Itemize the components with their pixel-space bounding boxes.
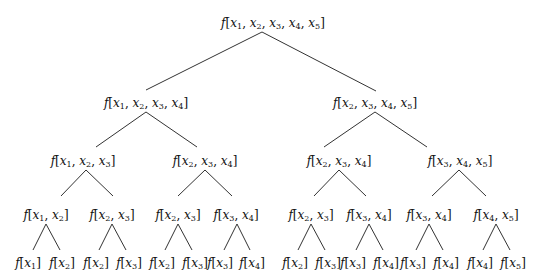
- tree-edge: [314, 170, 339, 196]
- tree-node: f[x2, x3, x4]: [173, 155, 238, 169]
- tree-edge: [165, 224, 178, 250]
- tree-edge: [416, 224, 429, 250]
- tree-leaf: f[x4]: [239, 257, 265, 271]
- tree-edge: [86, 170, 113, 196]
- tree-edge: [146, 32, 262, 90]
- tree-edge: [459, 170, 486, 196]
- tree-node: f[x4, x5]: [473, 209, 518, 223]
- tree-edge: [46, 224, 60, 250]
- tree-edge: [146, 112, 197, 147]
- tree-edge: [311, 224, 325, 250]
- tree-leaf: f[x4]: [467, 257, 493, 271]
- tree-leaf: f[x1]: [15, 257, 41, 271]
- tree-node: f[x2, x3]: [89, 209, 134, 223]
- tree-node: f[x2, x3]: [288, 209, 333, 223]
- tree-node: f[x1, x2, x3, x4]: [104, 97, 188, 111]
- tree-edge: [61, 170, 86, 196]
- tree-edge: [432, 170, 459, 196]
- tree-edge: [237, 224, 250, 250]
- tree-edge: [356, 224, 369, 250]
- tree-leaf: f[x3]: [315, 257, 341, 271]
- tree-leaf: f[x2]: [282, 257, 308, 271]
- tree-leaf: f[x5]: [500, 257, 526, 271]
- tree-leaf: f[x3]: [400, 257, 426, 271]
- tree-edge: [429, 224, 443, 250]
- tree-edge: [339, 170, 366, 196]
- tree-node: f[x3, x4]: [213, 209, 258, 223]
- tree-node: f[x2, x3, x4]: [307, 155, 372, 169]
- tree-leaf: f[x2]: [149, 257, 175, 271]
- tree-leaf: f[x3]: [207, 257, 233, 271]
- tree-edge: [112, 224, 126, 250]
- tree-node: f[x1, x2]: [23, 209, 68, 223]
- tree-node: f[x3, x4]: [406, 209, 451, 223]
- tree-leaf: f[x4]: [433, 257, 459, 271]
- tree-node: f[x1, x2, x3]: [51, 155, 116, 169]
- tree-node: f[x2, x3, x4, x5]: [333, 97, 417, 111]
- tree-leaf: f[x2]: [83, 257, 109, 271]
- tree-edge: [324, 112, 375, 147]
- tree-node: f[x1, x2, x3, x4, x5]: [221, 17, 325, 31]
- tree-node: f[x3, x4]: [346, 209, 391, 223]
- tree-leaf: f[x3]: [182, 257, 208, 271]
- tree-edge: [96, 112, 146, 147]
- tree-edge: [224, 224, 237, 250]
- tree-node: f[x3, x4, x5]: [428, 155, 493, 169]
- tree-edge: [375, 112, 427, 147]
- divided-difference-tree: f[x1, x2, x3, x4, x5]f[x1, x2, x3, x4]f[…: [0, 0, 546, 278]
- tree-leaf: f[x3]: [340, 257, 366, 271]
- tree-node: f[x2, x3]: [155, 209, 200, 223]
- tree-leaf: f[x3]: [116, 257, 142, 271]
- tree-edge: [483, 224, 496, 250]
- tree-edge: [262, 32, 376, 91]
- tree-edge: [298, 224, 311, 250]
- tree-edge: [178, 170, 205, 196]
- tree-edge: [99, 224, 112, 250]
- tree-edges: [0, 0, 546, 278]
- tree-edge: [178, 224, 192, 250]
- tree-edge: [205, 170, 232, 196]
- tree-edge: [496, 224, 510, 250]
- tree-leaf: f[x4]: [373, 257, 399, 271]
- tree-edge: [33, 224, 46, 250]
- tree-leaf: f[x2]: [49, 257, 75, 271]
- tree-edge: [369, 224, 383, 250]
